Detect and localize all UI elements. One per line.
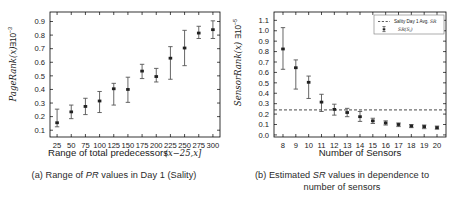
legend-label-avg: Sality Day 1 Avg. SR	[394, 19, 437, 24]
y-axis-label-b-mult: ∃10	[234, 25, 243, 40]
data-point	[435, 126, 439, 129]
y-tick-label: 1.1	[258, 16, 269, 25]
y-tick-label: 0.6	[258, 68, 269, 77]
x-axis-label-b-text: Number of Sensors	[319, 147, 402, 158]
y-tick-label: 0.1	[258, 120, 269, 129]
x-tick-label: 18	[407, 141, 415, 150]
y-tick-label: 0.4	[34, 85, 45, 94]
figure-row: 0.10.20.30.40.50.60.70.80.9 255075100125…	[0, 0, 456, 204]
y-tick-label: 0.5	[34, 72, 45, 81]
y-tick-label: 0.6	[34, 58, 45, 67]
subfigure-a: 0.10.20.30.40.50.60.70.80.9 255075100125…	[0, 0, 228, 204]
y-tick-label: 0.2	[258, 110, 269, 119]
y-tick-label: 0.8	[258, 47, 269, 56]
y-tick-label: 0.0	[258, 131, 269, 140]
y-tick-label: 0.2	[34, 112, 45, 121]
caption-a-italic: PR	[86, 170, 99, 180]
y-tick-label: 0.1	[34, 126, 45, 135]
sensorrank-sensors-chart: 0.00.10.20.30.40.50.60.70.80.91.01.1 891…	[228, 0, 456, 160]
subfigure-b: 0.00.10.20.30.40.50.60.70.80.91.01.1 891…	[228, 0, 456, 204]
x-tick-label: 20	[433, 141, 441, 150]
y-tick-label: 0.8	[34, 31, 45, 40]
caption-b-suffix: values in dependence to	[326, 170, 429, 180]
y-tick-label: 0.7	[34, 44, 45, 53]
sensorrank-chart-svg: 0.00.10.20.30.40.50.60.70.80.91.01.1 891…	[228, 0, 456, 160]
caption-a: (a) Range of PR values in Day 1 (Sality)	[0, 170, 228, 182]
y-tick-label: 1.0	[258, 26, 269, 35]
y-tick-label: 0.5	[258, 79, 269, 88]
y-axis-label-a-mult: ∃10	[9, 33, 18, 48]
x-tick-label: 19	[420, 141, 428, 150]
caption-b-italic: SR	[313, 170, 326, 180]
y-tick-label: 0.7	[258, 58, 269, 67]
y-tick-label: 0.9	[34, 17, 45, 26]
x-axis-label-a-math: (x−25,x]	[165, 148, 202, 158]
caption-b-prefix: (b) Estimated	[255, 170, 313, 180]
pagerank-range-chart: 0.10.20.30.40.50.60.70.80.9 255075100125…	[0, 0, 228, 160]
y-axis-label-a: PageRank(x) ∃10 −3	[7, 27, 18, 103]
x-tick-label: 300	[207, 141, 220, 150]
y-axis-label-a-text: PageRank(x)	[8, 46, 18, 102]
y-axis-label-a-exp: −3	[7, 27, 13, 33]
caption-b-line1: (b) Estimated SR values in dependence to	[228, 170, 456, 182]
x-tick-label: 10	[304, 141, 312, 150]
caption-b-line2: number of sensors	[228, 182, 456, 194]
x-axis-label-a-text: Range of total predecessors	[48, 147, 168, 158]
y-tick-label: 0.3	[258, 99, 269, 108]
y-tick-label: 0.9	[258, 37, 269, 46]
y-axis-label-b: SensorRank(x) ∃10 −5	[232, 19, 243, 106]
x-tick-label: 8	[281, 141, 285, 150]
y-axis-label-b-text: SensorRank(x)	[233, 42, 243, 106]
x-tick-label: 9	[294, 141, 298, 150]
caption-b: (b) Estimated SR values in dependence to…	[228, 170, 456, 193]
plot-frame-a	[50, 12, 220, 137]
legend-b[interactable]: Sality Day 1 Avg. SR SR(Si)	[374, 15, 444, 34]
pagerank-chart-svg: 0.10.20.30.40.50.60.70.80.9 255075100125…	[0, 0, 228, 160]
y-axis-label-b-exp: −5	[232, 19, 238, 25]
y-tick-label: 0.3	[34, 99, 45, 108]
caption-a-prefix: (a) Range of	[32, 170, 86, 180]
caption-a-suffix: values in Day 1 (Sality)	[99, 170, 197, 180]
data-point	[409, 125, 413, 128]
y-tick-label: 0.4	[258, 89, 269, 98]
